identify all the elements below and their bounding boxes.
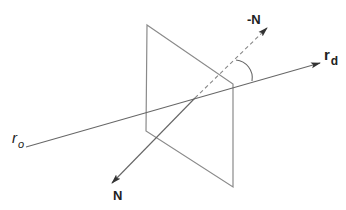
angle-arc xyxy=(236,60,252,81)
normal-label: N xyxy=(113,188,122,203)
negative-normal-line xyxy=(195,28,267,98)
ray-direction-label: rd xyxy=(324,46,338,68)
ray-origin-label: ro xyxy=(12,129,24,150)
ray-line xyxy=(26,63,320,147)
ray-plane-diagram: ro rd N -N xyxy=(0,0,346,210)
plane xyxy=(146,25,233,187)
negative-normal-label: -N xyxy=(247,12,261,27)
